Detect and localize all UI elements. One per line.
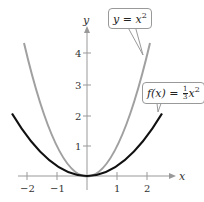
x-tick-label-m1: −1 <box>50 183 65 194</box>
callout-f-one-third-x-squared: f(x) = 13x2 <box>142 82 204 104</box>
x-axis-label: x <box>179 170 186 183</box>
callout-y-equals-x-squared: y = x2 <box>108 8 152 29</box>
callout-f-lhs: f(x) = <box>147 87 182 100</box>
y-axis-arrow <box>84 26 90 33</box>
x-axis-arrow <box>169 173 176 179</box>
callout-f-fraction: 13 <box>183 86 187 101</box>
y-axis-label: y <box>82 14 90 27</box>
y-tick-label-1: 1 <box>75 141 81 152</box>
y-tick-label-4: 4 <box>75 48 81 59</box>
x-tick-label-p1: 1 <box>114 183 120 194</box>
y-tick-label-3: 3 <box>75 80 81 91</box>
callout-f-exponent: 2 <box>195 85 200 94</box>
y-tick-label-2: 2 <box>75 111 81 122</box>
callout-parabola-exponent: 2 <box>142 11 147 20</box>
x-tick-label-p2: 2 <box>144 183 150 194</box>
x-tick-label-m2: −2 <box>20 183 35 194</box>
callout-parabola-text: y = x <box>113 13 142 26</box>
fraction-denominator: 3 <box>183 94 187 101</box>
